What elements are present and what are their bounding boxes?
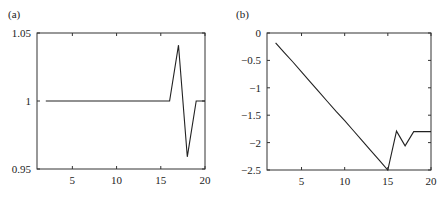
data-line	[276, 43, 431, 170]
y-tick-label: 0	[256, 27, 262, 39]
figure: (a)51015200.9511.05(b)51015200−0.5−1−1.5…	[0, 0, 446, 199]
y-tick-label: 0.95	[12, 163, 32, 175]
y-tick-label: −1.5	[241, 109, 261, 121]
y-tick-label: −1	[249, 82, 261, 94]
panel-label: (b)	[236, 8, 249, 21]
x-tick-label: 10	[339, 175, 351, 187]
x-tick-label: 15	[155, 174, 167, 186]
x-tick-label: 20	[426, 175, 438, 187]
x-tick-label: 5	[299, 175, 305, 187]
y-tick-label: −0.5	[241, 54, 261, 66]
x-tick-label: 15	[382, 175, 394, 187]
axes-frame	[267, 33, 431, 170]
panel-label: (a)	[8, 8, 21, 21]
x-tick-label: 10	[111, 174, 123, 186]
x-tick-label: 5	[70, 174, 76, 186]
y-tick-label: 1	[26, 95, 32, 107]
chart-panel-a: (a)51015200.9511.05	[8, 8, 211, 186]
chart-panel-b: (b)51015200−0.5−1−1.5−2−2.5	[236, 8, 437, 187]
y-tick-label: −2	[249, 137, 261, 149]
x-tick-label: 20	[200, 174, 212, 186]
data-line	[46, 45, 205, 157]
y-tick-label: −2.5	[241, 164, 261, 176]
y-tick-label: 1.05	[12, 27, 32, 39]
